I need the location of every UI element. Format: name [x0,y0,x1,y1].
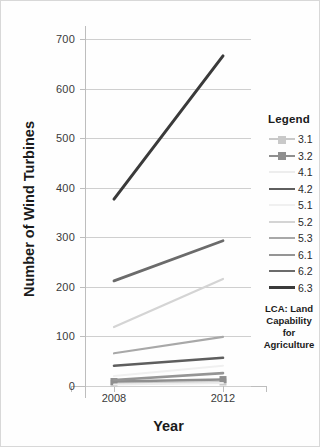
legend-item-3-2[interactable]: 3.2 [259,148,319,165]
legend-item-5-2[interactable]: 5.2 [259,214,319,231]
legend-caption-line: Capability [259,315,319,327]
legend-item-5-3[interactable]: 5.3 [259,230,319,247]
legend-swatch-icon [269,270,295,272]
legend-caption-line: Agriculture [259,339,319,351]
legend-label: 6.1 [298,249,319,261]
legend-swatch-icon [269,237,295,239]
series-line-5-3 [114,337,223,353]
chart-page: 0100200300400500600700 Number of Wind Tu… [0,0,320,447]
legend-item-3-1[interactable]: 3.1 [259,131,319,148]
series-line-6-3 [114,56,223,199]
legend-label: 3.1 [298,133,319,145]
legend-caption-line: for [259,327,319,339]
legend-item-4-1[interactable]: 4.1 [259,164,319,181]
legend-item-6-2[interactable]: 6.2 [259,263,319,280]
legend-label: 5.1 [298,199,319,211]
legend-label: 5.2 [298,216,319,228]
legend-item-6-3[interactable]: 6.3 [259,280,319,297]
legend-label: 4.1 [298,166,319,178]
legend-label: 6.2 [298,265,319,277]
legend-swatch-icon [269,171,295,173]
legend-title: Legend [259,113,319,125]
legend-caption-line: LCA: Land [259,303,319,315]
legend-swatch-icon [269,138,295,140]
legend-swatch-icon [269,155,295,157]
legend-label: 5.3 [298,232,319,244]
series-line-4-2 [114,358,223,366]
legend-label: 6.3 [298,282,319,294]
legend-caption: LCA: LandCapabilityforAgriculture [259,303,319,351]
series-line-6-2 [114,241,223,281]
legend-swatch-icon [269,286,295,289]
series-marker-3-2 [220,376,227,383]
legend-label: 3.2 [298,150,319,162]
series-line-5-2 [114,279,223,327]
legend-entries: 3.13.24.14.25.15.25.36.16.26.3 [259,131,319,296]
legend: Legend 3.13.24.14.25.15.25.36.16.26.3 LC… [259,113,319,351]
legend-swatch-icon [269,221,295,223]
legend-swatch-icon [269,188,295,190]
legend-label: 4.2 [298,183,319,195]
legend-item-6-1[interactable]: 6.1 [259,247,319,264]
legend-swatch-icon [269,254,295,256]
legend-item-5-1[interactable]: 5.1 [259,197,319,214]
legend-swatch-icon [269,204,295,206]
legend-item-4-2[interactable]: 4.2 [259,181,319,198]
